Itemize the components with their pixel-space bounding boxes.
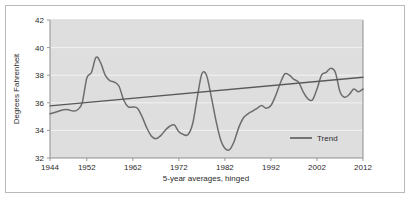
x-tick-label-1982: 1982 xyxy=(216,163,234,172)
y-tick-label-36: 36 xyxy=(35,99,44,108)
y-tick-label-38: 38 xyxy=(35,71,44,80)
y-tick-label-32: 32 xyxy=(35,154,44,163)
y-axis-title: Degrees Fahrenheit xyxy=(12,53,21,124)
legend-label-trend: Trend xyxy=(317,134,338,143)
x-tick-label-1944: 1944 xyxy=(41,163,59,172)
x-axis-title: 5-year averages, hinged xyxy=(163,174,249,183)
x-tick-label-1972: 1972 xyxy=(170,163,188,172)
y-tick-label-34: 34 xyxy=(35,126,44,135)
x-tick-label-2012: 2012 xyxy=(354,163,372,172)
x-axis-ticks-group: 19441952196219721982199220022012 xyxy=(41,158,372,172)
x-tick-label-1962: 1962 xyxy=(124,163,142,172)
x-tick-label-1952: 1952 xyxy=(78,163,96,172)
y-axis-ticks-group: 323436384042 xyxy=(35,16,50,163)
y-tick-label-42: 42 xyxy=(35,16,44,25)
x-tick-label-1992: 1992 xyxy=(262,163,280,172)
y-tick-label-40: 40 xyxy=(35,44,44,53)
chart-figure: 323436384042 194419521962197219821992200… xyxy=(0,0,413,201)
line-chart: 323436384042 194419521962197219821992200… xyxy=(0,0,413,201)
x-tick-label-2002: 2002 xyxy=(308,163,326,172)
